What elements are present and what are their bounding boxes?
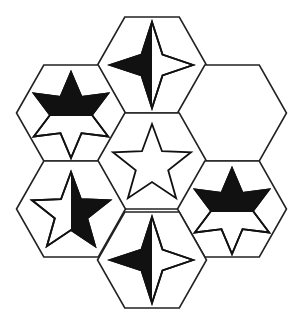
puzzle-board: 4-point star, left half black6-point sta… — [0, 0, 306, 317]
hexagon-puzzle: Hexagon star pattern puzzle 4-point star… — [0, 0, 306, 317]
